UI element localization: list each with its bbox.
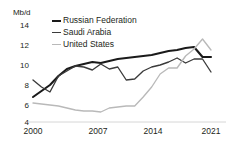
x-axis-tick-2007: 2007 [81,126,115,136]
series-line-saudi-arabia [33,58,211,92]
series-line-russian-federation [33,47,211,97]
x-axis-tick-2000: 2000 [16,126,50,136]
x-axis-tick-2014: 2014 [136,126,170,136]
line-chart: Mb/d 14 12 10 8 6 4 Russian Federation S… [0,0,230,145]
x-axis-tick-2021: 2021 [194,126,228,136]
plot-area [0,0,230,145]
series-layer [33,39,211,112]
